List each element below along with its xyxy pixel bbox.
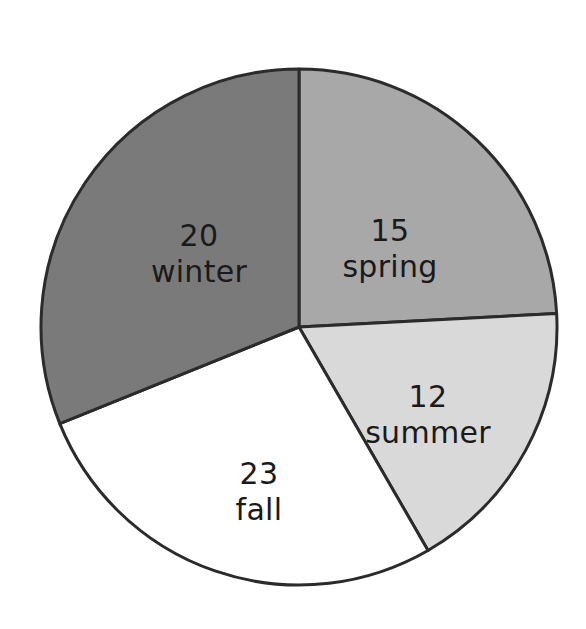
pie-label-value-spring: 15 (371, 213, 410, 248)
pie-label-value-fall: 23 (240, 456, 279, 491)
pie-chart-figure: 15spring12summer23fall20winter (0, 0, 586, 629)
pie-label-value-summer: 12 (409, 379, 448, 414)
pie-label-fall: 23fall (236, 456, 283, 527)
pie-label-name-fall: fall (236, 492, 283, 527)
pie-slices-group (41, 69, 557, 585)
pie-label-name-winter: winter (151, 254, 248, 289)
pie-label-name-spring: spring (342, 249, 437, 284)
pie-label-value-winter: 20 (180, 218, 219, 253)
pie-chart-canvas: 15spring12summer23fall20winter (0, 0, 586, 629)
pie-label-name-summer: summer (365, 415, 491, 450)
